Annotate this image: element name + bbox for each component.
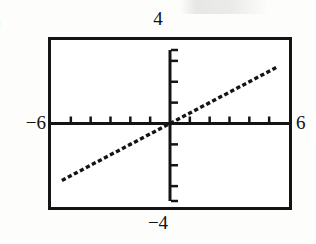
axis-label-x-max: 6 [296,113,314,133]
plot-area [51,40,289,207]
axis-label-y-max: 4 [0,9,316,29]
viewing-window-frame [48,37,292,210]
axis-label-y-min: −4 [0,213,316,233]
graphing-calculator-figure: ) 4 −6 6 −4 [0,0,316,244]
plot-canvas [51,40,289,207]
axis-label-x-min: −6 [8,113,46,133]
